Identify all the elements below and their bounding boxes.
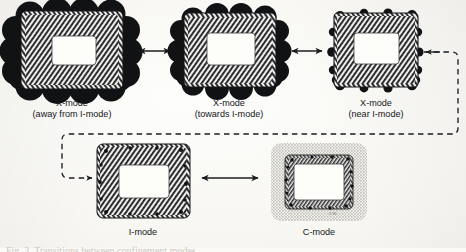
panel-label-x-mode-near-line2: (near I-mode)	[348, 109, 403, 119]
panel-label-c-mode: C-mode	[303, 227, 335, 237]
panel-label-x-mode-towards-line2: (towards I-mode)	[195, 109, 264, 119]
hatched-annulus	[97, 144, 190, 218]
panel-label-x-mode-near-line1: X-mode	[360, 98, 392, 108]
panel-label-x-mode-towards-line1: X-mode	[213, 98, 245, 108]
figure-caption: Fig. 3. Transitions between confinement …	[6, 245, 196, 252]
artist-mark: J.W.	[329, 211, 337, 216]
panel-i-mode	[97, 144, 190, 218]
panel-label-x-mode-away-line1: X-mode	[56, 98, 88, 108]
panel-x-mode-towards	[168, 3, 292, 100]
panel-label-i-mode: I-mode	[129, 227, 157, 237]
hatched-annulus	[184, 13, 276, 87]
panel-x-mode-away	[0, 0, 143, 104]
thin-hatched-ring	[285, 155, 353, 209]
panel-label-x-mode-away-line2: (away from I-mode)	[33, 109, 112, 119]
hatched-annulus	[21, 11, 123, 89]
panel-c-mode	[271, 143, 367, 221]
panel-x-mode-near	[327, 8, 423, 92]
hatched-annulus	[334, 13, 418, 87]
